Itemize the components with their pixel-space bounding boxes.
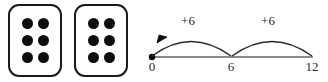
dice-card-2 bbox=[74, 4, 128, 77]
jump-arc-2 bbox=[232, 42, 312, 57]
dice-card-group bbox=[0, 0, 140, 82]
pip-dot bbox=[38, 35, 49, 46]
jump-arrowhead-icon bbox=[157, 35, 167, 43]
pip-dot bbox=[104, 35, 115, 46]
tick-label-6: 6 bbox=[228, 60, 235, 73]
dice-card-1-pips bbox=[10, 6, 60, 75]
pip-dot bbox=[88, 35, 99, 46]
pip-dot bbox=[22, 35, 33, 46]
pip-dot bbox=[88, 18, 99, 29]
dice-card-2-pips bbox=[76, 6, 126, 75]
pip-dot bbox=[38, 52, 49, 63]
tick-label-12: 12 bbox=[306, 60, 319, 73]
tick-label-0: 0 bbox=[149, 60, 156, 73]
jump-arc-1 bbox=[152, 42, 231, 57]
pip-dot bbox=[104, 52, 115, 63]
pip-dot bbox=[104, 18, 115, 29]
pip-dot bbox=[38, 18, 49, 29]
pip-dot bbox=[88, 52, 99, 63]
number-line: +6 +6 0 6 12 bbox=[140, 0, 328, 82]
pip-dot bbox=[22, 18, 33, 29]
pip-dot bbox=[22, 52, 33, 63]
dice-card-1 bbox=[8, 4, 62, 77]
jump-label-2: +6 bbox=[261, 14, 275, 27]
worksheet-diagram: +6 +6 0 6 12 bbox=[0, 0, 328, 82]
jump-label-1: +6 bbox=[181, 14, 195, 27]
